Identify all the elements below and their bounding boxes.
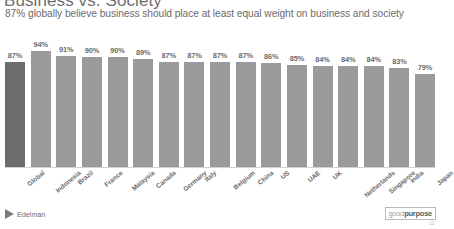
bar-value-label: 79% — [418, 63, 433, 72]
bar-value-label: 86% — [264, 52, 279, 61]
bar-value-label: 84% — [367, 55, 382, 64]
category-label-malaysia: Malaysia — [130, 169, 155, 192]
bar-column: 84% — [364, 40, 384, 168]
bar-global — [5, 62, 25, 168]
bar-india — [389, 68, 409, 168]
bar-value-label: 91% — [59, 45, 74, 54]
bar-value-label: 90% — [110, 46, 125, 55]
bar-malaysia — [108, 57, 128, 168]
bar-column: 86% — [261, 40, 281, 168]
category-label-canada: Canada — [155, 169, 178, 189]
category-label-japan: Japan — [435, 169, 454, 186]
bar-value-label: 84% — [341, 55, 356, 64]
bar-china — [236, 62, 256, 168]
bar-column: 94% — [31, 40, 51, 168]
bar-singapore — [364, 66, 384, 168]
goodpurpose-logo: good purpose — [385, 207, 436, 220]
edelman-wordmark: Edelman — [17, 210, 45, 219]
category-label-germany: Germany — [181, 169, 207, 193]
bar-column: 84% — [313, 40, 333, 168]
bar-uk — [313, 66, 333, 168]
bar-column: 87% — [236, 40, 256, 168]
bar-value-label: 83% — [392, 57, 407, 66]
category-label-belgium: Belgium — [232, 169, 256, 191]
bar-uae — [287, 65, 307, 168]
bar-value-label: 89% — [136, 48, 151, 57]
category-label-france: France — [103, 169, 124, 188]
arrow-right-icon — [5, 209, 14, 219]
category-label-global: Global — [26, 169, 46, 187]
category-label-uae: UAE — [306, 169, 321, 183]
bar-indonesia — [31, 51, 51, 168]
bar-column: 89% — [133, 40, 153, 168]
chart-category-axis-labels: GlobalIndonesiaBrazilFranceMalaysiaCanad… — [5, 169, 435, 203]
category-label-uk: UK — [331, 169, 343, 180]
bar-chart-plot-area: 87%94%91%90%90%89%87%87%87%87%86%85%84%8… — [5, 40, 435, 168]
bar-column: 87% — [5, 40, 25, 168]
bar-column: 87% — [159, 40, 179, 168]
bar-column: 91% — [56, 40, 76, 168]
bar-value-label: 87% — [162, 51, 177, 60]
bar-value-label: 84% — [315, 55, 330, 64]
goodpurpose-good-text: good — [388, 209, 404, 218]
bar-value-label: 87% — [187, 51, 202, 60]
bar-column: 79% — [415, 40, 435, 168]
bar-value-label: 90% — [85, 46, 100, 55]
bar-column: 90% — [82, 40, 102, 168]
category-label-china: China — [256, 169, 274, 186]
bar-netherlands — [338, 66, 358, 168]
bar-brazil — [56, 56, 76, 168]
bar-value-label: 87% — [8, 51, 23, 60]
bar-germany — [159, 62, 179, 168]
bar-belgium — [210, 62, 230, 168]
edelman-logo: Edelman — [5, 209, 45, 219]
page-subtitle: 87% globally believe business should pla… — [5, 8, 404, 19]
bar-column: 90% — [108, 40, 128, 168]
bar-france — [82, 57, 102, 168]
bar-italy — [184, 62, 204, 168]
bar-us — [261, 63, 281, 168]
bar-column: 87% — [184, 40, 204, 168]
chart-baseline-axis — [5, 167, 435, 168]
bar-column: 84% — [338, 40, 358, 168]
bar-canada — [133, 59, 153, 168]
category-label-us: US — [279, 169, 290, 180]
bar-column: 83% — [389, 40, 409, 168]
bar-column: 85% — [287, 40, 307, 168]
bar-value-label: 85% — [290, 54, 305, 63]
goodpurpose-purpose-text: purpose — [404, 209, 432, 218]
bar-value-label: 94% — [33, 40, 48, 49]
bar-column: 87% — [210, 40, 230, 168]
page-number: 12 — [429, 221, 434, 226]
bar-value-label: 87% — [238, 51, 253, 60]
bar-japan — [415, 74, 435, 168]
bar-value-label: 87% — [213, 51, 228, 60]
